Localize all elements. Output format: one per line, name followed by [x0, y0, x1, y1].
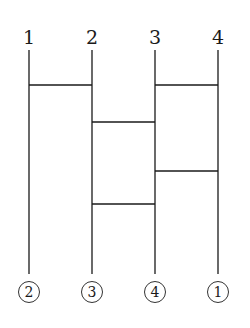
bottom-label-circled-4: 4 — [144, 281, 166, 303]
bottom-label-circled-3: 3 — [81, 281, 103, 303]
top-label-2: 2 — [82, 28, 102, 47]
bottom-label-circled-2: 2 — [18, 281, 40, 303]
top-label-4: 4 — [208, 28, 228, 47]
bottom-label-circled-1: 1 — [207, 281, 229, 303]
top-label-1: 1 — [19, 28, 39, 47]
top-label-3: 3 — [145, 28, 165, 47]
ladder-lines — [0, 0, 250, 328]
ladder-diagram: 1 2 3 4 2 3 4 1 — [0, 0, 250, 328]
